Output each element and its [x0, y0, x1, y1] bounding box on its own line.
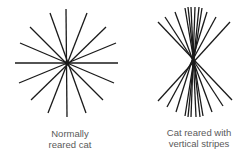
- caption-line: vertical stripes: [150, 138, 248, 149]
- caption-line: Normally: [30, 128, 110, 139]
- normal-cat-orientation-starburst: [15, 9, 118, 117]
- caption-line: reared cat: [30, 139, 110, 150]
- center-point: [65, 61, 69, 65]
- caption-line: Cat reared with: [150, 127, 248, 138]
- stripes-cat-caption: Cat reared with vertical stripes: [150, 127, 248, 149]
- vertical-stripes-cat-orientation-starburst: [158, 7, 232, 117]
- normal-cat-caption: Normally reared cat: [30, 128, 110, 150]
- center-point: [192, 60, 196, 64]
